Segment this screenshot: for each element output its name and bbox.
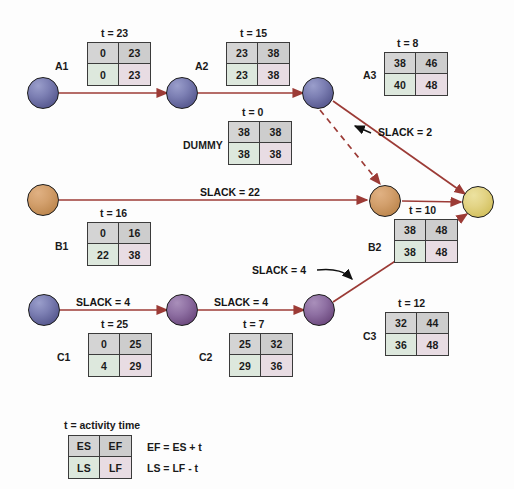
c3-t-label: t = 12 — [398, 297, 425, 309]
a3-ls: 40 — [385, 74, 416, 95]
node-c2-c3[interactable] — [303, 294, 335, 326]
node-start-a[interactable] — [27, 77, 59, 109]
b2-name: B2 — [368, 241, 381, 253]
a3-box: 38 46 40 48 — [384, 52, 448, 96]
c1-box: 0 25 4 29 — [88, 333, 152, 377]
edge-b2 — [402, 201, 461, 202]
c2-ef: 32 — [261, 334, 292, 355]
b1-ls: 22 — [88, 244, 119, 265]
node-c1-c2[interactable] — [166, 294, 198, 326]
legend-es: ES — [69, 436, 100, 457]
a2-box: 23 38 23 38 — [226, 42, 290, 86]
slack-c3-label: SLACK = 4 — [252, 264, 306, 276]
b1-t-label: t = 16 — [100, 207, 127, 219]
legend-equation-ls: LS = LF - t — [147, 462, 198, 474]
b1-ef: 16 — [119, 223, 150, 244]
a3-ef: 46 — [416, 53, 447, 74]
b2-ef: 48 — [426, 220, 457, 241]
c1-lf: 29 — [120, 355, 151, 376]
a2-ls: 23 — [227, 64, 258, 85]
c1-es: 0 — [89, 334, 120, 355]
node-a2-a3[interactable] — [302, 77, 334, 109]
a2-name: A2 — [195, 60, 208, 72]
slack-c2-label: SLACK = 4 — [214, 296, 268, 308]
c2-lf: 36 — [261, 355, 292, 376]
dummy-box: 38 38 38 38 — [228, 121, 292, 165]
c3-ef: 44 — [417, 313, 448, 334]
node-start-b[interactable] — [27, 184, 59, 216]
legend-lf: LF — [100, 457, 131, 478]
c3-name: C3 — [363, 330, 376, 342]
b2-lf: 48 — [426, 241, 457, 262]
edge-dummy — [320, 110, 380, 184]
dummy-t-label: t = 0 — [242, 106, 263, 118]
dummy-ls: 38 — [229, 143, 260, 164]
c1-ef: 25 — [120, 334, 151, 355]
edge-a3 — [333, 101, 465, 194]
b2-t-label: t = 10 — [409, 204, 436, 216]
b2-ls: 38 — [395, 241, 426, 262]
node-b1-b2[interactable] — [369, 185, 401, 217]
c3-lf: 48 — [417, 334, 448, 355]
node-finish[interactable] — [462, 186, 494, 218]
slack-c3-pointer — [317, 269, 352, 279]
a2-es: 23 — [227, 43, 258, 64]
c2-name: C2 — [199, 351, 212, 363]
c3-es: 32 — [386, 313, 417, 334]
a1-ef: 23 — [119, 43, 150, 64]
b1-es: 0 — [88, 223, 119, 244]
a1-es: 0 — [88, 43, 119, 64]
c2-ls: 29 — [230, 355, 261, 376]
node-start-c[interactable] — [28, 294, 60, 326]
c3-ls: 36 — [386, 334, 417, 355]
a3-lf: 48 — [416, 74, 447, 95]
c2-t-label: t = 7 — [243, 318, 264, 330]
a1-lf: 23 — [119, 64, 150, 85]
c2-es: 25 — [230, 334, 261, 355]
legend-box: ES EF LS LF — [68, 435, 132, 479]
a2-t-label: t = 15 — [240, 27, 267, 39]
dummy-es: 38 — [229, 122, 260, 143]
dummy-ef: 38 — [260, 122, 291, 143]
a3-name: A3 — [363, 69, 376, 81]
legend-activity-time: t = activity time — [64, 419, 140, 431]
slack-a3-label: SLACK = 2 — [378, 126, 432, 138]
b1-name: B1 — [55, 240, 68, 252]
legend-ef: EF — [100, 436, 131, 457]
c1-ls: 4 — [89, 355, 120, 376]
a2-ef: 38 — [258, 43, 289, 64]
dummy-name: DUMMY — [183, 139, 223, 151]
b1-box: 0 16 22 38 — [87, 222, 151, 266]
b1-lf: 38 — [119, 244, 150, 265]
c3-box: 32 44 36 48 — [385, 312, 449, 356]
legend-equation-ef: EF = ES + t — [147, 441, 202, 453]
a1-ls: 0 — [88, 64, 119, 85]
b2-es: 38 — [395, 220, 426, 241]
a3-t-label: t = 8 — [397, 37, 418, 49]
a1-t-label: t = 23 — [101, 27, 128, 39]
c1-t-label: t = 25 — [101, 318, 128, 330]
c2-box: 25 32 29 36 — [229, 333, 293, 377]
a2-lf: 38 — [258, 64, 289, 85]
c1-name: C1 — [57, 351, 70, 363]
slack-b1-label: SLACK = 22 — [200, 186, 260, 198]
dummy-lf: 38 — [260, 143, 291, 164]
b2-box: 38 48 38 48 — [394, 219, 458, 263]
slack-c1-label: SLACK = 4 — [76, 296, 130, 308]
a1-box: 0 23 0 23 — [87, 42, 151, 86]
a3-es: 38 — [385, 53, 416, 74]
node-a1-a2[interactable] — [166, 77, 198, 109]
network-diagram-canvas: t = 23 A1 0 23 0 23 t = 15 A2 23 38 23 3… — [0, 0, 514, 489]
legend-ls: LS — [69, 457, 100, 478]
a1-name: A1 — [55, 60, 68, 72]
